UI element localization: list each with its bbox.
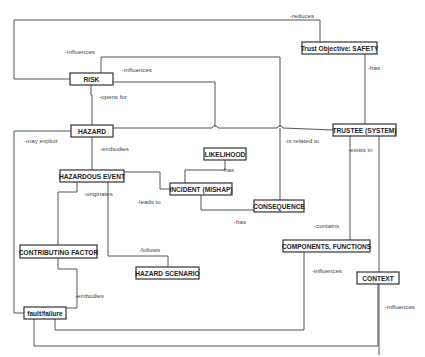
edge-label-risk-influences-loop: -influences — [65, 48, 95, 55]
edge-label-context-influences: -influences — [385, 303, 415, 310]
node-label: Trust Objective: SAFETY — [301, 45, 379, 53]
node-consequence[interactable]: CONSEQUENCE — [253, 200, 305, 212]
edge-label-reduces: -reduces — [290, 12, 314, 19]
node-label: HAZARD — [78, 128, 106, 135]
edge-label-trust-has: -has — [368, 64, 380, 71]
node-label: CONTEXT — [362, 275, 394, 282]
node-context[interactable]: CONTEXT — [357, 272, 399, 284]
node-contributing-factor[interactable]: CONTRIBUTING FACTOR — [19, 245, 99, 258]
node-label: HAZARDOUS EVENT — [59, 173, 125, 180]
node-hazardous-event[interactable]: HAZARDOUS EVENT — [59, 170, 125, 182]
node-label: RISK — [84, 76, 100, 83]
edge-incident-consequence — [201, 195, 254, 210]
edge-risk-to-likelihood — [113, 82, 215, 127]
edge-event-incident — [124, 172, 170, 189]
node-label: CONTRIBUTING FACTOR — [19, 249, 99, 256]
node-label: INCIDENT (MISHAP) — [169, 186, 232, 194]
node-label: CONSEQUENCE — [253, 203, 305, 211]
node-hazard-scenario[interactable]: HAZARD SCENARIO — [135, 267, 199, 279]
edge-components-influences — [55, 252, 304, 330]
node-trust-objective[interactable]: Trust Objective: SAFETY — [301, 42, 379, 54]
node-label: HAZARD SCENARIO — [135, 270, 199, 277]
node-label: TRUSTEE (SYSTEM) — [332, 127, 396, 135]
node-fault-failure[interactable]: fault/failure — [24, 307, 66, 319]
edge-label-embodies-cf: -embodies — [75, 292, 104, 299]
edge-label-likelihood-has: -has — [222, 166, 234, 173]
edge-label-may-exploit: -may exploit — [24, 137, 58, 144]
edge-label-leads-to: -leads to — [137, 198, 161, 205]
node-label: COMPONENTS, FUNCTIONS — [282, 243, 372, 251]
edge-label-consequence-has: -has — [234, 218, 246, 225]
edge-label-opens-for: -opens for — [99, 93, 127, 100]
edge-embodies-cf — [58, 258, 77, 308]
nodes-layer: Trust Objective: SAFETYRISKHAZARDTRUSTEE… — [19, 42, 399, 319]
edge-label-embodies-hazard: -embodies — [100, 145, 129, 152]
edge-label-originates: -originates — [84, 190, 113, 197]
edge-label-follows: -follows — [139, 246, 160, 253]
edge-label-exists-in: -exists in — [348, 146, 373, 153]
edge-likelihood-has — [185, 160, 225, 183]
node-trustee[interactable]: TRUSTEE (SYSTEM) — [332, 124, 396, 136]
safety-concept-diagram: -influences-reduces-influences-opens for… — [0, 0, 425, 357]
node-likelihood[interactable]: LIKELIHOOD — [204, 148, 246, 160]
edge-label-contains: -contains — [314, 222, 339, 229]
node-components[interactable]: COMPONENTS, FUNCTIONS — [282, 240, 372, 252]
edge-opens-for — [91, 85, 92, 125]
edge-label-components-influences: -influences — [312, 267, 342, 274]
edge-follows — [108, 182, 168, 267]
node-label: fault/failure — [27, 310, 63, 317]
node-label: LIKELIHOOD — [205, 151, 246, 158]
node-hazard[interactable]: HAZARD — [71, 125, 113, 137]
edge-originates — [58, 182, 77, 245]
node-risk[interactable]: RISK — [70, 73, 113, 85]
node-incident[interactable]: INCIDENT (MISHAP) — [169, 183, 232, 195]
edge-label-is-related-to: -is related to — [285, 137, 320, 144]
edge-risk-influences-loop — [14, 20, 320, 79]
edge-label-risk-influences-likelihood: -influences — [122, 66, 152, 73]
edge-may-exploit — [14, 131, 71, 313]
edge-hazard-trustee — [113, 128, 333, 130]
